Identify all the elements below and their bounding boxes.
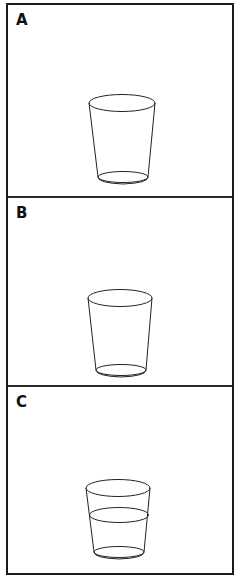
panel-c: C (8, 387, 232, 573)
glass-with-water-icon (8, 387, 232, 573)
panel-a: A (8, 5, 232, 198)
water-surface (90, 508, 149, 523)
figure-frame: A B C (6, 3, 234, 575)
glass-icon (8, 5, 232, 196)
panel-b: B (8, 198, 232, 387)
glass-icon (8, 198, 232, 385)
